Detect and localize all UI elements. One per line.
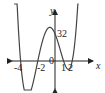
y-axis-label: y	[50, 6, 54, 16]
x-tick-1: 1	[61, 63, 66, 73]
y-tick-32: 32	[57, 29, 67, 39]
x-tick-2: 2	[68, 63, 73, 73]
x-tick-neg2: -2	[37, 63, 45, 73]
polynomial-curve	[14, 4, 79, 90]
x-tick-neg4: -4	[14, 63, 22, 73]
x-axis-label: x	[96, 61, 100, 71]
origin-label: 0	[49, 56, 54, 66]
